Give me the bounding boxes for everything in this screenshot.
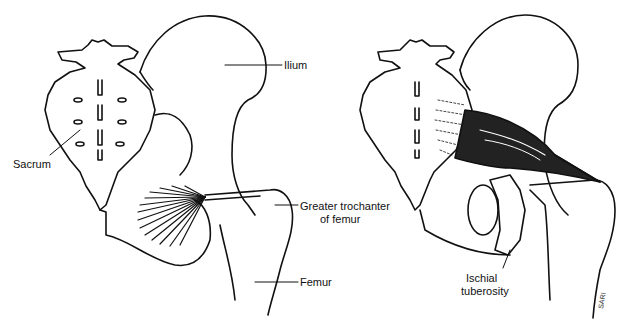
anatomy-illustration: [0, 0, 633, 321]
label-ischial-line1: Ischial: [466, 272, 497, 284]
label-femur: Femur: [300, 276, 332, 288]
label-ilium: Ilium: [284, 59, 307, 71]
label-ischial-line2: tuberosity: [461, 285, 509, 297]
label-sacrum: Sacrum: [13, 158, 51, 170]
label-greater-trochanter-line2: of femur: [320, 213, 360, 225]
label-greater-trochanter-line1: Greater trochanter: [300, 200, 390, 212]
left-panel-drawing: [45, 16, 298, 315]
